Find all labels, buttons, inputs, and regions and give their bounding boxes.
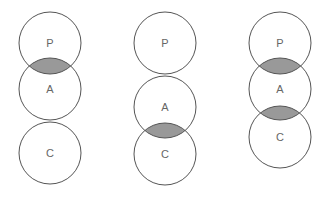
label-p: P: [276, 37, 283, 49]
label-c: C: [46, 147, 54, 159]
label-a: A: [276, 83, 284, 95]
group-2: PAC: [134, 12, 196, 185]
overlap-a-c: [260, 106, 299, 120]
label-a: A: [46, 83, 54, 95]
group-1: PAC: [19, 12, 81, 184]
label-c: C: [276, 131, 284, 143]
overlap-p-a: [259, 58, 301, 74]
pac-overlap-diagram: PACPACPAC: [0, 0, 331, 199]
group-3: PAC: [249, 12, 311, 168]
label-a: A: [161, 101, 169, 113]
label-p: P: [161, 37, 168, 49]
label-c: C: [161, 148, 169, 160]
overlap-a-c: [145, 123, 185, 138]
label-p: P: [46, 37, 53, 49]
overlap-p-a: [29, 58, 71, 74]
